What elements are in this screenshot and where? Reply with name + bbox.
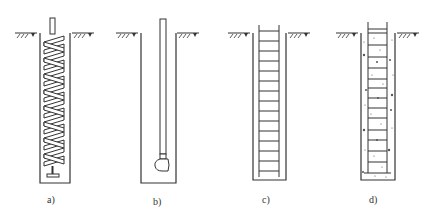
panel-d-label: d) (369, 194, 377, 205)
panel-b-label: b) (153, 196, 161, 207)
auger-shaft (50, 18, 55, 34)
panel-b-pump (116, 19, 199, 183)
pump-head (155, 159, 169, 171)
ground-surface-icon (116, 33, 199, 38)
auger-flights (44, 36, 64, 166)
diagram-canvas (0, 0, 433, 222)
panel-a-auger (15, 18, 94, 183)
borehole (253, 33, 286, 180)
panel-d-concrete (336, 22, 419, 180)
panel-c-label: c) (262, 194, 270, 205)
pipe (160, 19, 166, 154)
ground-surface-icon (336, 33, 419, 38)
panel-a-label: a) (47, 194, 55, 205)
reinforcement-cage (259, 25, 279, 177)
auger-bit (47, 174, 59, 177)
ground-surface-icon (228, 33, 310, 38)
panel-c-cage (228, 25, 310, 180)
borehole (361, 33, 395, 180)
